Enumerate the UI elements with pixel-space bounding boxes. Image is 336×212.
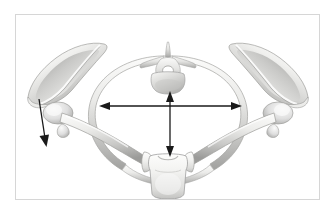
clavicle-right — [183, 113, 276, 172]
thoracic-vertebra — [140, 42, 196, 94]
anatomy-illustration — [0, 0, 336, 212]
clavicle-left — [60, 113, 153, 172]
coracoid-process-left — [57, 124, 69, 138]
manubrium-sterni — [149, 154, 188, 199]
figure-root: Superior view of the thoracic inlet and … — [0, 0, 336, 212]
anteroposterior-diameter-arrow — [166, 91, 174, 157]
spinous-process — [166, 42, 171, 57]
coracoid-process-right — [267, 124, 279, 138]
